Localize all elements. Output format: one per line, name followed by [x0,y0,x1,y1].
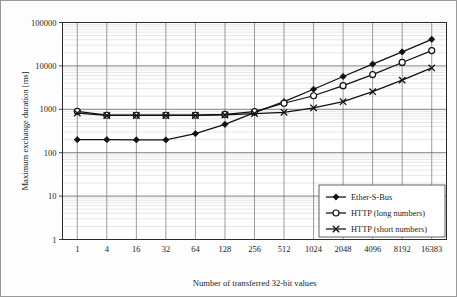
marker-circle [399,59,405,65]
x-tick-label: 32 [162,244,171,254]
x-tick-label: 128 [219,244,232,254]
y-tick-label: 10000 [35,61,56,71]
y-axis-ticks: 110100100010000100000 [31,18,63,245]
marker-circle [281,100,287,106]
x-tick-label: 1024 [305,244,323,254]
x-axis-ticks: 14163264128256512102420484096819216383 [75,244,442,254]
y-tick-label: 100 [44,148,57,158]
x-tick-label: 2048 [335,244,352,254]
x-tick-label: 4096 [364,244,381,254]
x-tick-label: 64 [191,244,200,254]
figure-frame: 1101001000100001000001416326412825651210… [0,0,457,297]
y-tick-label: 1000 [40,104,57,114]
marker-circle [311,93,317,99]
legend-entry-label: HTTP (short numbers) [351,225,427,234]
x-tick-label: 16 [132,244,141,254]
x-tick-label: 1 [75,244,79,254]
x-tick-label: 16383 [421,244,442,254]
marker-circle [333,210,339,216]
chart-legend: Ether-S-BusHTTP (long numbers)HTTP (shor… [319,185,445,237]
x-tick-label: 512 [278,244,291,254]
x-tick-label: 8192 [394,244,411,254]
x-axis-title: Number of transferred 32-bit values [193,278,317,288]
y-tick-label: 100000 [31,18,57,28]
x-tick-label: 256 [248,244,261,254]
chart-canvas: 1101001000100001000001416326412825651210… [1,1,457,297]
y-tick-label: 1 [52,235,56,245]
legend-entry-label: Ether-S-Bus [351,193,392,202]
marker-circle [370,72,376,78]
x-tick-label: 4 [105,244,110,254]
line-chart: 1101001000100001000001416326412825651210… [1,1,457,297]
y-tick-label: 10 [48,191,57,201]
marker-circle [340,83,346,89]
y-axis-title: Maximum exchange duration [ms] [20,71,30,190]
legend-entry-label: HTTP (long numbers) [351,209,425,218]
marker-circle [429,48,435,54]
